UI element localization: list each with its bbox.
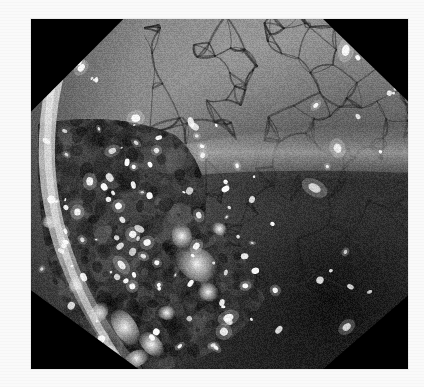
endoscopic-photo	[31, 19, 408, 369]
page-canvas: Grayscale endoscopic photograph of mucos…	[0, 0, 424, 387]
figure-alt-text: Grayscale endoscopic photograph of mucos…	[0, 0, 1, 1]
endoscopic-image-canvas	[31, 19, 408, 369]
